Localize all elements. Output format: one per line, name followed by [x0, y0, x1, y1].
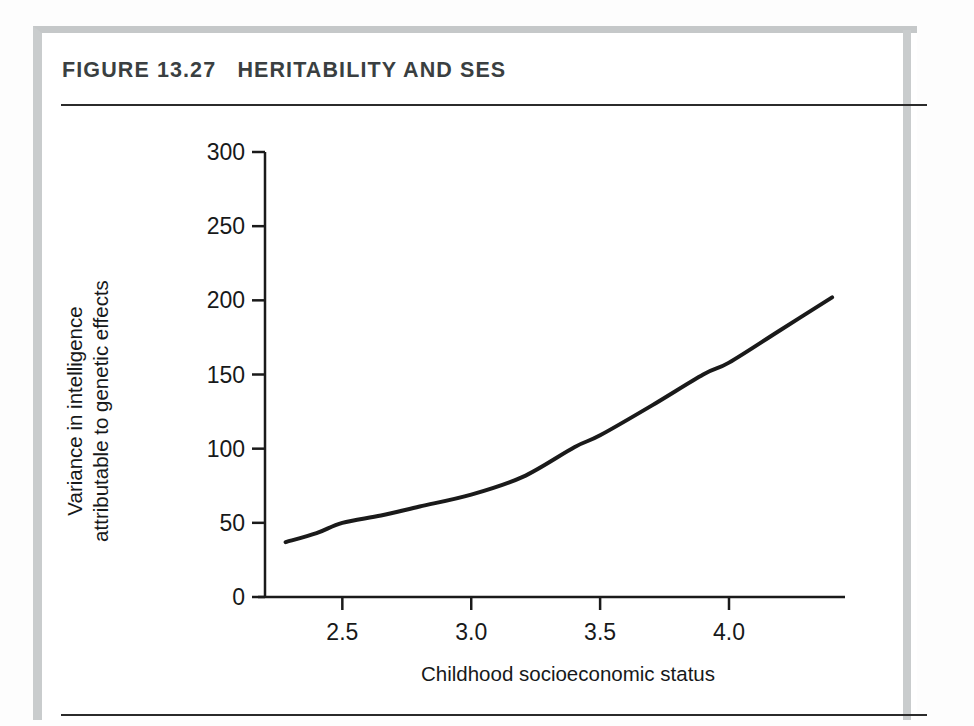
x-tick-label: 2.5 [326, 619, 358, 646]
y-axis-title-line-1: Variance in intelligence [62, 201, 88, 621]
scanned-page: for various lifetime different type of t… [0, 0, 974, 726]
x-tick-label: 3.5 [584, 619, 616, 646]
figure-title: FIGURE 13.27 HERITABILITY AND SES [62, 58, 506, 83]
y-tick-label: 100 [160, 435, 245, 462]
y-tick-label: 0 [160, 584, 245, 611]
y-tick-label: 300 [160, 139, 245, 166]
figure-frame-right-edge [903, 30, 911, 720]
y-axis-title: Variance in intelligence attributable to… [62, 201, 114, 621]
title-divider-rule [61, 104, 927, 106]
x-axis-title: Childhood socioeconomic status [268, 662, 868, 686]
y-tick-label: 250 [160, 213, 245, 240]
bottom-divider-rule [61, 714, 927, 716]
y-tick-label: 150 [160, 361, 245, 388]
x-tick-label: 3.0 [455, 619, 487, 646]
x-tick-label: 4.0 [713, 619, 745, 646]
y-axis-title-line-2: attributable to genetic effects [88, 201, 114, 621]
y-tick-label: 50 [160, 509, 245, 536]
y-tick-label: 200 [160, 287, 245, 314]
